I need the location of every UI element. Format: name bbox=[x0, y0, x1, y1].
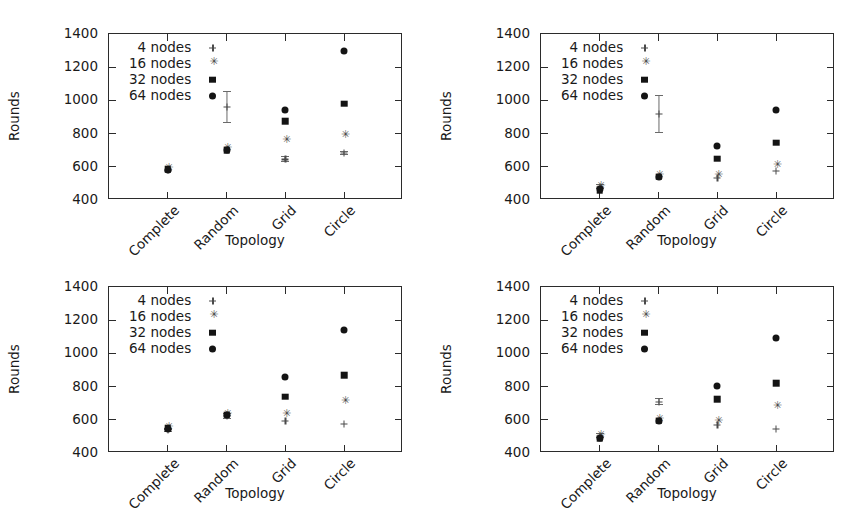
y-tick-label: 1200 bbox=[496, 311, 530, 327]
panel-bottom-left: 400600800100012001400Rounds4 nodes16 nod… bbox=[0, 258, 432, 515]
plot-area: 4 nodes16 nodes32 nodes64 nodes bbox=[108, 286, 402, 452]
data-point-square-marker bbox=[282, 118, 289, 125]
panel-top-right: 400600800100012001400Rounds4 nodes16 nod… bbox=[432, 0, 864, 258]
data-point-square-marker bbox=[282, 393, 289, 400]
data-point-circle-marker bbox=[655, 418, 662, 425]
y-axis-title: Rounds bbox=[438, 344, 454, 394]
x-tick-label: Grid bbox=[268, 202, 299, 233]
data-point-plus-marker bbox=[341, 420, 348, 427]
plot-area: 4 nodes16 nodes32 nodes64 nodes bbox=[540, 33, 834, 199]
y-tick-label: 600 bbox=[72, 411, 98, 427]
x-tick-label: Complete bbox=[557, 455, 614, 512]
data-point-circle-marker bbox=[223, 147, 230, 154]
x-axis-title: Topology bbox=[225, 232, 285, 248]
data-point-square-marker bbox=[341, 100, 348, 107]
data-point-star-marker bbox=[282, 138, 289, 145]
y-tick-label: 600 bbox=[72, 158, 98, 174]
data-point-star-marker bbox=[714, 173, 721, 180]
data-point-star-marker bbox=[341, 400, 348, 407]
data-point-circle-marker bbox=[773, 107, 780, 114]
data-point-plus-marker bbox=[655, 110, 662, 117]
y-tick-label: 1400 bbox=[496, 25, 530, 41]
y-axis-title: Rounds bbox=[438, 91, 454, 141]
y-axis-title: Rounds bbox=[6, 344, 22, 394]
y-tick-label: 400 bbox=[72, 191, 98, 207]
y-axis-title: Rounds bbox=[6, 91, 22, 141]
y-tick-label: 600 bbox=[504, 411, 530, 427]
data-point-circle-marker bbox=[164, 426, 171, 433]
x-axis-title: Topology bbox=[657, 485, 717, 501]
x-axis-title: Topology bbox=[657, 232, 717, 248]
y-tick-label: 800 bbox=[72, 378, 98, 394]
y-tick-label: 1400 bbox=[496, 278, 530, 294]
data-point-plus-marker bbox=[773, 425, 780, 432]
data-points-layer bbox=[109, 287, 401, 451]
data-point-circle-marker bbox=[282, 374, 289, 381]
y-tick-label: 800 bbox=[72, 125, 98, 141]
y-tick-label: 1000 bbox=[496, 91, 530, 107]
y-tick-label: 1400 bbox=[64, 25, 98, 41]
x-tick-label: Circle bbox=[752, 202, 790, 240]
y-tick-label: 1200 bbox=[64, 58, 98, 74]
data-point-plus-marker bbox=[655, 398, 662, 405]
data-point-circle-marker bbox=[341, 48, 348, 55]
data-point-circle-marker bbox=[223, 412, 230, 419]
data-point-plus-marker bbox=[282, 156, 289, 163]
x-tick-label: Grid bbox=[700, 455, 731, 486]
y-tick-label: 1000 bbox=[64, 91, 98, 107]
error-bar-cap-top bbox=[223, 91, 231, 92]
plot-area: 4 nodes16 nodes32 nodes64 nodes bbox=[540, 286, 834, 452]
data-point-square-marker bbox=[341, 372, 348, 379]
y-tick-label: 1200 bbox=[64, 311, 98, 327]
error-bar-cap-top bbox=[655, 95, 663, 96]
y-tick-label: 400 bbox=[504, 191, 530, 207]
data-point-circle-marker bbox=[655, 173, 662, 180]
y-tick-label: 400 bbox=[504, 444, 530, 460]
data-point-star-marker bbox=[282, 413, 289, 420]
y-tick-label: 400 bbox=[72, 444, 98, 460]
data-point-circle-marker bbox=[773, 335, 780, 342]
plot-area: 4 nodes16 nodes32 nodes64 nodes bbox=[108, 33, 402, 199]
data-point-square-marker bbox=[714, 155, 721, 162]
data-points-layer bbox=[109, 34, 401, 198]
data-point-star-marker bbox=[341, 133, 348, 140]
data-points-layer bbox=[541, 34, 833, 198]
panel-top-left: 400600800100012001400Rounds4 nodes16 nod… bbox=[0, 0, 432, 258]
data-point-circle-marker bbox=[714, 382, 721, 389]
x-axis-title: Topology bbox=[225, 485, 285, 501]
data-point-square-marker bbox=[773, 380, 780, 387]
data-point-star-marker bbox=[714, 420, 721, 427]
data-point-circle-marker bbox=[596, 435, 603, 442]
data-point-circle-marker bbox=[282, 107, 289, 114]
error-bar-cap-bottom bbox=[223, 122, 231, 123]
data-point-circle-marker bbox=[164, 166, 171, 173]
y-tick-label: 800 bbox=[504, 378, 530, 394]
data-point-square-marker bbox=[773, 139, 780, 146]
data-point-star-marker bbox=[773, 163, 780, 170]
y-tick-label: 1000 bbox=[496, 344, 530, 360]
data-points-layer bbox=[541, 287, 833, 451]
data-point-square-marker bbox=[714, 396, 721, 403]
y-tick-label: 1000 bbox=[64, 344, 98, 360]
x-tick-label: Complete bbox=[125, 455, 182, 512]
panel-bottom-right: 400600800100012001400Rounds4 nodes16 nod… bbox=[432, 258, 864, 515]
data-point-star-marker bbox=[773, 405, 780, 412]
y-tick-label: 600 bbox=[504, 158, 530, 174]
x-tick-label: Circle bbox=[752, 455, 790, 493]
x-tick-label: Grid bbox=[268, 455, 299, 486]
y-tick-label: 1400 bbox=[64, 278, 98, 294]
data-point-circle-marker bbox=[714, 143, 721, 150]
error-bar-cap-bottom bbox=[655, 132, 663, 133]
x-tick-label: Circle bbox=[320, 202, 358, 240]
x-tick-label: Grid bbox=[700, 202, 731, 233]
y-tick-label: 1200 bbox=[496, 58, 530, 74]
data-point-circle-marker bbox=[341, 327, 348, 334]
data-point-circle-marker bbox=[596, 186, 603, 193]
y-tick-label: 800 bbox=[504, 125, 530, 141]
x-tick-label: Complete bbox=[125, 202, 182, 259]
x-tick-label: Complete bbox=[557, 202, 614, 259]
figure-panel-grid: 400600800100012001400Rounds4 nodes16 nod… bbox=[0, 0, 864, 515]
x-tick-label: Circle bbox=[320, 455, 358, 493]
data-point-plus-marker bbox=[341, 149, 348, 156]
data-point-plus-marker bbox=[223, 104, 230, 111]
